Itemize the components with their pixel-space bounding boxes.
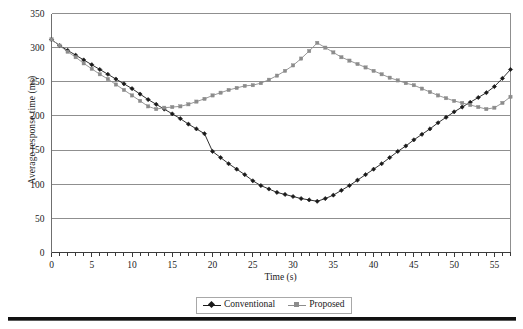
svg-text:200: 200 (30, 111, 45, 121)
x-axis-ticks (52, 253, 511, 258)
x-axis-title: Time (s) (51, 272, 510, 282)
svg-text:350: 350 (30, 9, 45, 19)
svg-text:300: 300 (30, 43, 45, 53)
svg-text:55: 55 (490, 260, 500, 270)
svg-text:35: 35 (329, 260, 339, 270)
svg-text:45: 45 (409, 260, 419, 270)
legend-label-conventional: Conventional (224, 300, 275, 310)
legend-swatch-conventional (203, 301, 221, 310)
svg-text:10: 10 (127, 260, 137, 270)
x-axis-tick-labels: 0510152025303540455055 (49, 260, 499, 270)
svg-text:100: 100 (30, 180, 45, 190)
svg-text:15: 15 (168, 260, 178, 270)
gridlines (52, 14, 511, 219)
legend-swatch-proposed (288, 301, 306, 310)
data-series-layer (49, 37, 512, 203)
legend-entry-proposed: Proposed (288, 300, 344, 310)
svg-text:50: 50 (449, 260, 459, 270)
square-marker-icon (294, 302, 299, 307)
svg-text:0: 0 (49, 260, 54, 270)
svg-text:250: 250 (30, 77, 45, 87)
svg-text:30: 30 (288, 260, 298, 270)
y-axis-tick-labels: 050100150200250300350 (30, 9, 45, 258)
svg-text:150: 150 (30, 145, 45, 155)
svg-text:0: 0 (40, 248, 45, 258)
axis-lines (52, 14, 511, 253)
svg-text:20: 20 (208, 260, 218, 270)
chart-figure: Average response time (ms) 0501001502002… (0, 0, 523, 329)
svg-text:25: 25 (248, 260, 258, 270)
svg-text:5: 5 (89, 260, 94, 270)
svg-text:50: 50 (35, 214, 45, 224)
diamond-marker-icon (208, 301, 215, 308)
chart-legend: Conventional Proposed (196, 297, 352, 314)
svg-text:40: 40 (369, 260, 379, 270)
bottom-rule-shadow (8, 320, 516, 321)
legend-entry-conventional: Conventional (203, 300, 275, 310)
plot-area: 050100150200250300350 051015202530354045… (0, 0, 523, 300)
legend-label-proposed: Proposed (309, 300, 344, 310)
